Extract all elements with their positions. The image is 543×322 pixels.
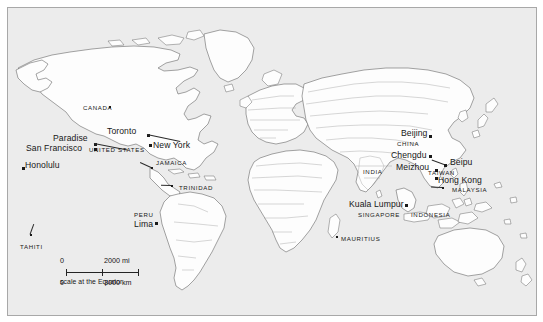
- scale-row-miles: 0 2000 mi: [60, 256, 152, 267]
- map-marker-dot: [429, 135, 432, 138]
- scale-tick-mid: [102, 269, 103, 276]
- map-marker-dot: [435, 177, 438, 180]
- map-marker-dot: [405, 204, 408, 207]
- map-marker-dot: [336, 236, 338, 238]
- scale-tick-end: [138, 269, 139, 276]
- map-marker-dot: [155, 222, 158, 225]
- map-marker-dot: [444, 164, 447, 167]
- scale-miles-value: 2000 mi: [104, 256, 130, 265]
- scale-bar: 0 2000 mi 0 3000 km scale at the Equator: [60, 256, 152, 289]
- map-marker-dot: [109, 106, 111, 108]
- scale-caption: scale at the Equator: [60, 278, 122, 285]
- map-marker-dot: [149, 144, 152, 147]
- map-frame: .land{fill:#fdfdfd;stroke:#5a5a5a;stroke…: [7, 7, 537, 316]
- scale-miles-zero: 0: [60, 256, 64, 265]
- map-marker-dot: [435, 169, 438, 172]
- scale-ruler: [60, 267, 152, 278]
- map-marker-dot: [171, 185, 173, 187]
- map-marker-dot: [429, 155, 432, 158]
- scale-tick-start: [66, 269, 67, 276]
- map-marker-dot: [94, 148, 97, 151]
- map-marker-dot: [442, 187, 444, 189]
- world-map-figure: .land{fill:#fdfdfd;stroke:#5a5a5a;stroke…: [0, 0, 543, 322]
- map-marker-dot: [22, 167, 25, 170]
- map-marker-dot: [151, 167, 153, 169]
